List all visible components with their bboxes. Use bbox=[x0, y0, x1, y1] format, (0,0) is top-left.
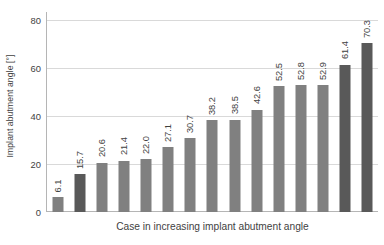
bar-group: 30.7 bbox=[179, 20, 201, 212]
bar-group: 52.8 bbox=[290, 20, 312, 212]
bar-chart: Implant abutment angle [°] 020406080 6.1… bbox=[0, 0, 384, 245]
bar-value-label: 61.4 bbox=[340, 41, 350, 59]
bar bbox=[53, 197, 64, 212]
bar bbox=[185, 138, 196, 212]
y-axis-tick-labels: 020406080 bbox=[18, 0, 45, 245]
bar bbox=[207, 120, 218, 212]
bar-group: 15.7 bbox=[69, 20, 91, 212]
bar bbox=[163, 147, 174, 212]
bar-group: 27.1 bbox=[157, 20, 179, 212]
x-axis-title: Case in increasing implant abutment angl… bbox=[47, 221, 378, 232]
bar bbox=[273, 86, 284, 212]
bar-value-label: 70.3 bbox=[362, 20, 372, 38]
y-axis-tick-label: 80 bbox=[31, 15, 41, 26]
bar-series: 6.115.720.621.422.027.130.738.238.542.65… bbox=[47, 20, 378, 212]
bar-value-label: 21.4 bbox=[119, 137, 129, 155]
bar-value-label: 52.8 bbox=[296, 62, 306, 80]
bar bbox=[317, 85, 328, 212]
bar-value-label: 20.6 bbox=[97, 139, 107, 157]
y-axis-tick-label: 60 bbox=[31, 63, 41, 74]
y-axis-title: Implant abutment angle [°] bbox=[0, 0, 18, 212]
y-axis-title-text: Implant abutment angle [°] bbox=[4, 54, 14, 157]
bar bbox=[141, 159, 152, 212]
y-axis-tick-label: 20 bbox=[31, 159, 41, 170]
bar-group: 20.6 bbox=[91, 20, 113, 212]
bar-value-label: 6.1 bbox=[53, 179, 63, 192]
bar-group: 6.1 bbox=[47, 20, 69, 212]
bar-group: 38.5 bbox=[224, 20, 246, 212]
bar-value-label: 52.9 bbox=[318, 62, 328, 80]
bar-value-label: 30.7 bbox=[185, 115, 195, 133]
bar-group: 52.9 bbox=[312, 20, 334, 212]
bar-group: 52.5 bbox=[268, 20, 290, 212]
plot-area: 6.115.720.621.422.027.130.738.238.542.65… bbox=[47, 20, 378, 212]
y-axis-tick-label: 40 bbox=[31, 111, 41, 122]
bar-group: 61.4 bbox=[334, 20, 356, 212]
bar bbox=[361, 43, 372, 212]
bar-group: 21.4 bbox=[113, 20, 135, 212]
bar-value-label: 27.1 bbox=[163, 124, 173, 142]
bar-group: 22.0 bbox=[135, 20, 157, 212]
bar-value-label: 52.5 bbox=[274, 63, 284, 81]
bar-value-label: 22.0 bbox=[141, 136, 151, 154]
bar bbox=[75, 174, 86, 212]
bar bbox=[295, 85, 306, 212]
bar bbox=[339, 65, 350, 212]
bar-value-label: 38.2 bbox=[207, 97, 217, 115]
bar-value-label: 38.5 bbox=[230, 96, 240, 114]
bar bbox=[229, 120, 240, 212]
bar-group: 42.6 bbox=[246, 20, 268, 212]
y-axis-tick-label: 0 bbox=[36, 207, 41, 218]
bar-group: 38.2 bbox=[201, 20, 223, 212]
bar-group: 70.3 bbox=[356, 20, 378, 212]
bar-value-label: 15.7 bbox=[75, 151, 85, 169]
bar bbox=[97, 163, 108, 212]
bar bbox=[119, 161, 130, 212]
bar bbox=[251, 110, 262, 212]
bar-value-label: 42.6 bbox=[252, 86, 262, 104]
